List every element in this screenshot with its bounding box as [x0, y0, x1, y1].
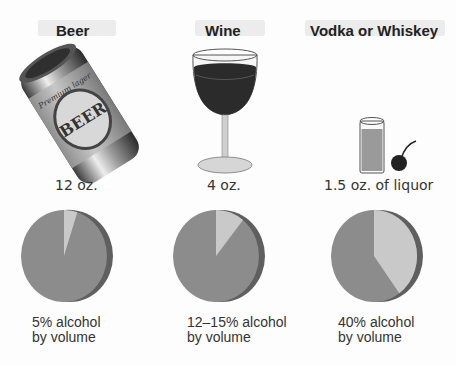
beer-alcohol-pie	[18, 206, 118, 306]
wine-glass-icon	[190, 45, 260, 180]
liquor-title: Vodka or Whiskey	[310, 22, 438, 39]
cherry-icon	[390, 135, 422, 175]
beer-abv-label: 5% alcohol by volume	[32, 315, 101, 345]
beer-serving: 12 oz.	[55, 177, 98, 193]
shot-glass-icon	[355, 115, 395, 177]
beer-can-icon: BEER Premium lager	[15, 40, 145, 190]
wine-abv-label: 12–15% alcohol by volume	[187, 315, 287, 345]
wine-serving: 4 oz.	[207, 177, 241, 193]
wine-title: Wine	[205, 22, 241, 39]
liquor-serving: 1.5 oz. of liquor	[324, 177, 433, 193]
liquor-alcohol-pie	[328, 206, 428, 306]
beer-title: Beer	[56, 22, 89, 39]
wine-alcohol-pie	[170, 206, 270, 306]
liquor-abv-label: 40% alcohol by volume	[338, 315, 414, 345]
